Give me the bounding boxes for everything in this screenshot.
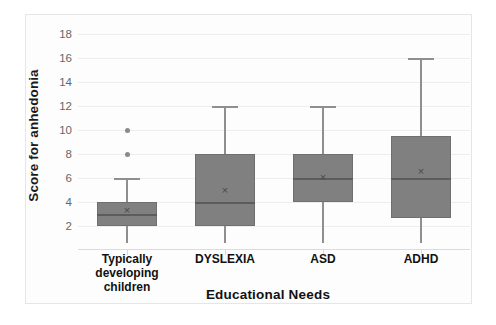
x-axis-tickmarks [78, 22, 470, 250]
y-axis-tick-label: 8 [66, 148, 72, 160]
y-axis-tick-label: 2 [66, 220, 72, 232]
y-axis-tick-label: 4 [66, 196, 72, 208]
x-axis-label-line1: DYSLEXIA [176, 252, 274, 266]
x-axis-label-asd: ASD [274, 252, 372, 266]
x-axis-label-adhd: ADHD [372, 252, 470, 266]
boxplot-figure: Score for anhedonia 24681012141618 ×××× … [0, 0, 496, 325]
y-axis-tick-label: 18 [59, 28, 72, 40]
y-axis-tick-label: 16 [59, 52, 72, 64]
plot-area: 24681012141618 ×××× [78, 22, 470, 250]
y-axis-tick-label: 14 [59, 76, 72, 88]
y-axis-title: Score for anhedonia [26, 41, 41, 231]
y-axis-tick-label: 6 [66, 172, 72, 184]
x-axis-title: Educational Needs [78, 287, 458, 302]
x-axis-label-line1: Typically developing [78, 252, 176, 280]
x-axis-label-dyslexia: DYSLEXIA [176, 252, 274, 266]
x-axis-label-line1: ASD [274, 252, 372, 266]
y-axis-tick-label: 12 [59, 100, 72, 112]
y-axis-tick-label: 10 [59, 124, 72, 136]
x-axis-label-line1: ADHD [372, 252, 470, 266]
